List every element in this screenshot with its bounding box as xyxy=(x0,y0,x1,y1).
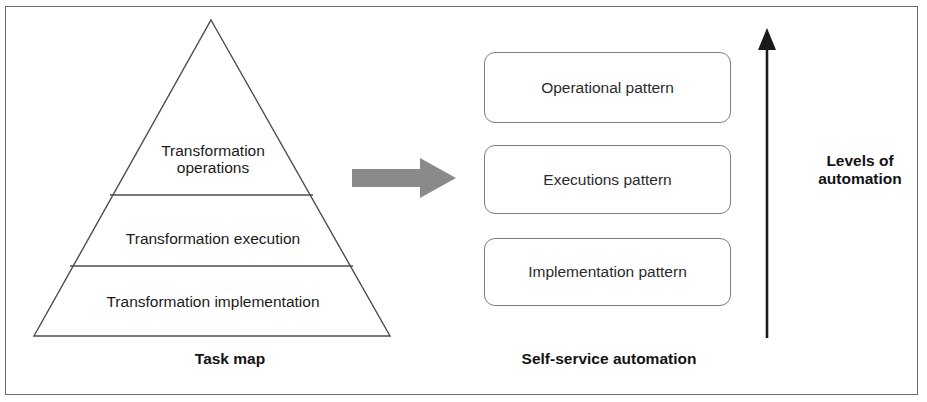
pyramid-tier-label-bottom: Transformation implementation xyxy=(48,293,378,310)
levels-of-automation-arrow xyxy=(752,24,786,342)
pattern-box-label: Executions pattern xyxy=(543,171,671,189)
gray-right-arrow xyxy=(352,156,457,200)
pattern-box-label: Implementation pattern xyxy=(528,263,687,281)
task-map-caption: Task map xyxy=(110,350,350,368)
up-arrow-icon xyxy=(752,24,786,342)
pyramid-outline xyxy=(34,20,390,336)
diagram-canvas: Transformation operations Transformation… xyxy=(0,0,927,402)
task-map-pyramid: Transformation operations Transformation… xyxy=(28,14,398,344)
right-arrow-icon xyxy=(352,156,457,200)
pyramid-tier-label-top: Transformation operations xyxy=(123,142,303,177)
pattern-box-label: Operational pattern xyxy=(541,79,674,97)
levels-of-automation-label: Levels of automation xyxy=(798,152,922,189)
pattern-box-operational[interactable]: Operational pattern xyxy=(484,52,731,123)
self-service-automation-caption: Self-service automation xyxy=(470,350,748,368)
pattern-box-executions[interactable]: Executions pattern xyxy=(484,145,731,214)
right-arrow-shape xyxy=(352,158,456,198)
pyramid-tier-label-middle: Transformation execution xyxy=(73,230,353,247)
pattern-box-implementation[interactable]: Implementation pattern xyxy=(484,238,731,306)
